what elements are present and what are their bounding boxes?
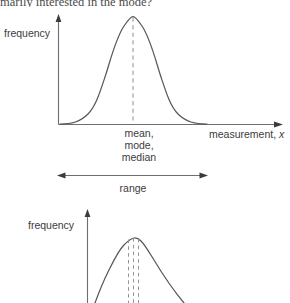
three-dashed-lines	[129, 238, 139, 303]
skewed-distribution-chart	[0, 0, 290, 303]
figure-page: marily interested in the mode? frequency…	[0, 0, 290, 303]
bottom-y-axis-label: frequency	[28, 219, 74, 231]
bottom-y-axis	[85, 209, 91, 303]
skewed-curve	[95, 238, 184, 303]
